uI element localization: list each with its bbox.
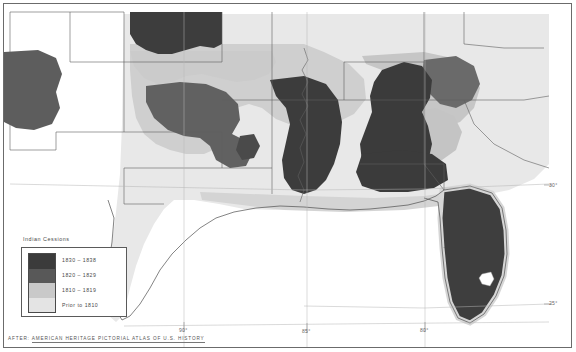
legend-box: 1830 – 1838 1820 – 1829 1810 – 1819 Prio… (21, 247, 127, 317)
legend-label-prior-1810: Prior to 1810 (62, 298, 124, 313)
map-figure: Indian Cessions 1830 – 1838 1820 – 1829 … (0, 0, 576, 352)
legend-swatch-1820-1829 (29, 269, 55, 284)
region-alabama-lower-extension (356, 150, 448, 192)
legend-label-1820-1829: 1820 – 1829 (62, 268, 124, 283)
legend-label-column: 1830 – 1838 1820 – 1829 1810 – 1819 Prio… (62, 253, 124, 313)
legend-swatch-column (28, 253, 56, 313)
latitude-label-30: 30° (549, 182, 557, 188)
legend-swatch-1810-1819 (29, 283, 55, 298)
longitude-label-90: 90° (179, 327, 187, 333)
region-west-edge-dark (4, 50, 62, 130)
legend-swatch-prior-1810 (29, 298, 55, 313)
latitude-label-25: 25° (549, 300, 557, 306)
legend-label-1830-1838: 1830 – 1838 (62, 253, 124, 268)
credit-prefix: AFTER: (8, 336, 30, 341)
map-frame: Indian Cessions 1830 – 1838 1820 – 1829 … (3, 3, 572, 348)
credit-line: AFTER: AMERICAN HERITAGE PICTORIAL ATLAS… (8, 336, 205, 341)
longitude-label-80: 80° (420, 327, 428, 333)
graticule-baseline (124, 322, 549, 326)
credit-source: AMERICAN HERITAGE PICTORIAL ATLAS OF U.S… (32, 336, 205, 343)
longitude-label-85: 85° (302, 328, 310, 334)
legend-label-1810-1819: 1810 – 1819 (62, 283, 124, 298)
legend-title: Indian Cessions (23, 236, 70, 242)
legend-swatch-1830-1838 (29, 254, 55, 269)
graticule-lat-25 (304, 304, 549, 308)
